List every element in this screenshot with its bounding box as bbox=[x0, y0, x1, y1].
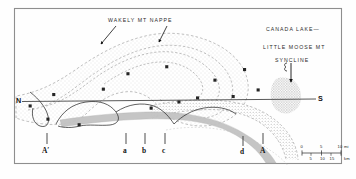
tick-label-a: a bbox=[123, 146, 127, 155]
wakely-mt-nappe-body bbox=[16, 33, 248, 126]
label-syncline: SYNCLINE bbox=[275, 57, 309, 63]
label-little-moose-mt: LITTLE MOOSE MT bbox=[263, 44, 325, 50]
scale-mile-5: 5 bbox=[320, 144, 322, 149]
scale-unit-miles: mi bbox=[344, 144, 349, 149]
label-wakely-mt-nappe: WAKELY MT NAPPE bbox=[108, 17, 173, 23]
tick-label-b: b bbox=[142, 146, 146, 155]
label-section-south: S bbox=[318, 94, 323, 103]
tick-label-A: A bbox=[260, 146, 265, 155]
scale-unit-km: km bbox=[344, 156, 350, 161]
label-section-north: N bbox=[16, 96, 21, 105]
nappe-leader-arrow-left bbox=[101, 26, 116, 44]
section-tick-group bbox=[47, 133, 263, 146]
syncline-core-patch bbox=[271, 78, 301, 114]
tick-label-d: d bbox=[240, 147, 244, 156]
syncline-bracket bbox=[285, 63, 287, 71]
tick-label-A-prime: A′ bbox=[42, 146, 49, 155]
scale-km-5: 5 bbox=[310, 156, 312, 161]
scale-mile-10: 10 bbox=[338, 144, 343, 149]
scale-mile-0: 0 bbox=[301, 144, 303, 149]
scale-km-10: 10 bbox=[320, 156, 325, 161]
label-canada-lake: CANADA LAKE— bbox=[266, 26, 320, 32]
tick-label-c: c bbox=[162, 146, 165, 155]
scale-km-15: 15 bbox=[330, 156, 335, 161]
geologic-map-figure: WAKELY MT NAPPE CANADA LAKE— LITTLE MOOS… bbox=[0, 0, 356, 179]
